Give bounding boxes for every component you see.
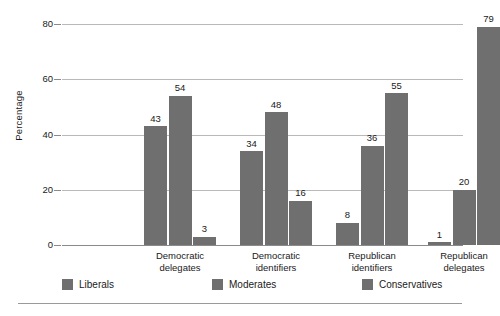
- gridline-0: [62, 245, 463, 246]
- x-category-label-line: Democratic: [252, 250, 300, 262]
- x-category-label-line: delegates: [156, 262, 204, 274]
- bar-value-label: 34: [246, 139, 257, 149]
- x-category-label-line: Republican: [440, 250, 488, 262]
- bar-value-label: 8: [345, 210, 350, 220]
- x-category-label-line: Republican: [348, 250, 396, 262]
- bar: 79: [477, 27, 500, 245]
- plot-area: 020406080 435433448168365512079 Democrat…: [62, 24, 463, 245]
- legend-item[interactable]: Moderates: [212, 279, 276, 290]
- bar: 20: [453, 190, 476, 245]
- x-category-label: Democraticdelegates: [156, 250, 204, 273]
- bar-value-label: 1: [437, 230, 442, 240]
- bar: 36: [361, 146, 384, 245]
- bar: 48: [265, 112, 288, 245]
- bar-value-label: 54: [175, 83, 186, 93]
- legend-swatch-icon: [212, 279, 223, 290]
- bar: 1: [428, 242, 451, 245]
- y-tick-mark-20: [54, 190, 61, 191]
- bar-value-label: 16: [295, 188, 306, 198]
- x-category-label-line: identifiers: [348, 262, 396, 274]
- legend-swatch-icon: [362, 279, 373, 290]
- x-category-label: Democraticidentifiers: [252, 250, 300, 273]
- bar-value-label: 20: [459, 177, 470, 187]
- chart-legend: LiberalsModeratesConservatives: [62, 279, 463, 293]
- bar: 54: [169, 96, 192, 245]
- y-tick-label: 40: [42, 130, 53, 140]
- legend-label: Moderates: [229, 280, 276, 290]
- legend-label: Liberals: [79, 280, 114, 290]
- y-axis-title: Percentage: [13, 56, 24, 176]
- bar: 55: [385, 93, 408, 245]
- bar-value-label: 43: [150, 114, 161, 124]
- bar: 3: [193, 237, 216, 245]
- y-tick-label: 20: [42, 185, 53, 195]
- bar: 34: [240, 151, 263, 245]
- y-tick-mark-40: [54, 135, 61, 136]
- x-category-label-line: identifiers: [252, 262, 300, 274]
- y-tick-label: 80: [42, 19, 53, 29]
- bar-value-label: 36: [367, 133, 378, 143]
- legend-item[interactable]: Conservatives: [362, 279, 442, 290]
- bar-value-label: 48: [271, 100, 282, 110]
- legend-item[interactable]: Liberals: [62, 279, 114, 290]
- bar: 8: [336, 223, 359, 245]
- bar-value-label: 3: [202, 224, 207, 234]
- y-tick-label: 60: [42, 75, 53, 85]
- bar: 43: [144, 126, 167, 245]
- x-category-label-line: delegates: [440, 262, 488, 274]
- x-category-label: Republicanidentifiers: [348, 250, 396, 273]
- legend-label: Conservatives: [379, 280, 442, 290]
- legend-swatch-icon: [62, 279, 73, 290]
- gridline-80: [62, 24, 463, 25]
- y-tick-mark-80: [54, 24, 61, 25]
- bar-value-label: 55: [391, 81, 402, 91]
- bar-value-label: 79: [483, 14, 494, 24]
- gridline-60: [62, 79, 463, 80]
- y-tick-label: 0: [48, 240, 53, 250]
- y-tick-mark-0: [54, 245, 61, 246]
- bar: 16: [289, 201, 312, 245]
- y-tick-mark-60: [54, 79, 61, 80]
- footer-divider: [18, 303, 462, 304]
- x-category-label: Republicandelegates: [440, 250, 488, 273]
- x-category-label-line: Democratic: [156, 250, 204, 262]
